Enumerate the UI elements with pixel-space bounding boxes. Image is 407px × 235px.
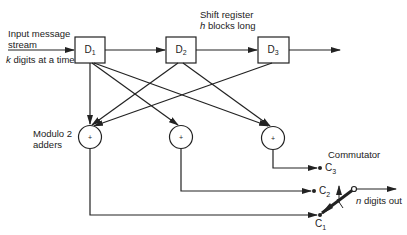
input-rate-label: k digits at a time <box>6 54 75 65</box>
contact-c2-label: C2 <box>319 185 330 198</box>
input-label: Input message stream <box>8 28 70 50</box>
input-rate-text: digits at a time <box>11 54 75 65</box>
contact-c2-dot <box>312 189 316 193</box>
register-d1-label: D1 <box>75 37 105 66</box>
contact-c1-label: C1 <box>315 218 326 231</box>
shift-register-line1: Shift register <box>200 9 255 20</box>
register-d2-label: D2 <box>166 37 196 66</box>
adder3-to-c3 <box>273 150 317 168</box>
adders-label-line1: Modulo 2 <box>33 128 72 139</box>
adders-label-line2: adders <box>33 139 72 150</box>
adder3-plus-icon: + <box>271 135 275 142</box>
input-label-line2: stream <box>8 39 70 50</box>
adder1-to-c1 <box>90 149 317 215</box>
adders-label: Modulo 2 adders <box>33 128 72 150</box>
adder1-plus-icon: + <box>88 134 92 141</box>
encoder-diagram: + + + Input message stream k digits at a… <box>0 0 407 235</box>
d2-to-adder3 <box>183 63 270 126</box>
commutator-arm-tip <box>320 203 333 215</box>
shift-register-line2: blocks long <box>205 20 255 31</box>
adder2-plus-icon: + <box>179 134 183 141</box>
contact-c3-label: C3 <box>325 162 336 175</box>
shift-register-label: Shift register h blocks long <box>200 9 255 31</box>
adder2-to-c2 <box>181 149 311 191</box>
input-label-line1: Input message <box>8 28 70 39</box>
commutator-pivot <box>352 187 357 192</box>
output-text: digits out <box>361 195 402 206</box>
contact-c3-dot <box>318 166 322 170</box>
register-d3-label: D3 <box>258 37 288 66</box>
output-label: n digits out <box>356 195 402 206</box>
commutator-label: Commutator <box>328 149 380 160</box>
